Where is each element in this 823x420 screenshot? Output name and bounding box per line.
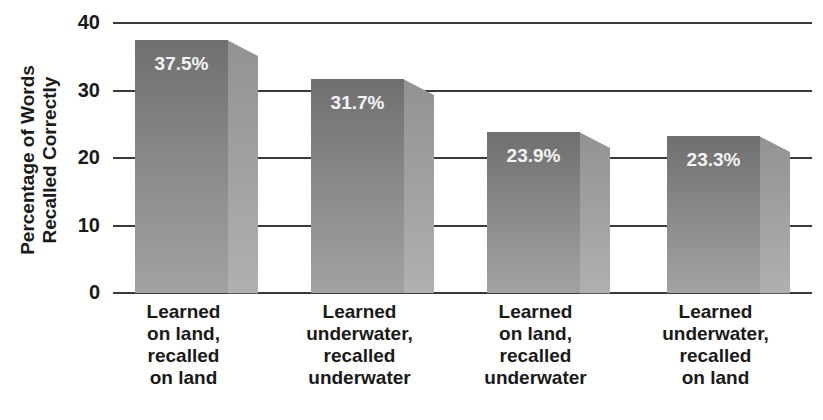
y-tick-label: 30 (60, 79, 100, 102)
x-tick-label-line: recalled (94, 345, 274, 367)
x-tick-label-line: on land (626, 367, 806, 389)
x-tick-label-line: Learned (94, 301, 274, 323)
bar-side-face (759, 136, 791, 294)
y-tick-label: 10 (60, 214, 100, 237)
gridline (113, 22, 812, 24)
x-tick-label: Learnedon land,recalledon land (94, 301, 274, 389)
x-tick-label-line: Learned (270, 301, 450, 323)
x-tick-label-line: recalled (446, 345, 626, 367)
x-tick-label-line: Learned (446, 301, 626, 323)
x-tick-label: Learnedon land,recalledunderwater (446, 301, 626, 389)
bar-side-face (227, 40, 259, 294)
x-tick-label: Learnedunderwater,recalledon land (626, 301, 806, 389)
x-tick-label-line: underwater (270, 367, 450, 389)
bar (135, 40, 228, 293)
x-tick-label-line: recalled (626, 345, 806, 367)
y-axis-label-line-1: Percentage of Words (17, 65, 39, 255)
x-tick-label: Learnedunderwater,recalledunderwater (270, 301, 450, 389)
bar-value-label: 23.9% (487, 145, 580, 167)
x-tick-label-line: underwater, (626, 323, 806, 345)
y-tick-label: 20 (60, 146, 100, 169)
x-tick-label-line: underwater, (270, 323, 450, 345)
x-tick-label-line: Learned (626, 301, 806, 323)
x-tick-label-line: on land, (446, 323, 626, 345)
bar-chart: Percentage of Words Recalled Correctly 0… (0, 0, 823, 420)
x-tick-label-line: on land, (94, 323, 274, 345)
x-tick-label-line: recalled (270, 345, 450, 367)
bar-value-label: 31.7% (311, 92, 404, 114)
bar-side-face (579, 132, 611, 294)
x-tick-label-line: on land (94, 367, 274, 389)
y-tick-label: 40 (60, 11, 100, 34)
bar-side-face (403, 79, 435, 294)
y-axis-label-line-2: Recalled Correctly (39, 65, 61, 255)
bar-value-label: 37.5% (135, 53, 228, 75)
x-tick-label-line: underwater (446, 367, 626, 389)
bar-value-label: 23.3% (667, 149, 760, 171)
